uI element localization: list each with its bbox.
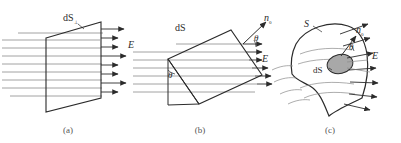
panel-b-label-angle-lower: θ xyxy=(168,70,173,80)
panel-b-caption: (b) xyxy=(195,125,206,135)
figure-canvas: dS⊥ E (a) xyxy=(0,0,401,143)
panel-c-label-surface: S xyxy=(304,18,309,29)
figure-electric-flux: dS⊥ E (a) xyxy=(0,0,401,143)
panel-b-label-surface: dS xyxy=(175,22,186,33)
panel-b-label-field: E xyxy=(261,53,268,64)
panel-a-label-surface-subscript: ⊥ xyxy=(74,20,78,25)
panel-c-caption: (c) xyxy=(325,125,335,135)
panel-b-label-angle-upper: θ xyxy=(254,33,259,43)
panel-a-label-field: E xyxy=(127,39,134,50)
panel-c-label-field: E xyxy=(371,50,378,61)
panel-c-label-patch: dS xyxy=(313,65,323,75)
panel-c-label-angle: θ xyxy=(349,42,354,52)
panel-a-label-surface-d: dS xyxy=(63,12,74,23)
panel-a-caption: (a) xyxy=(63,125,73,135)
